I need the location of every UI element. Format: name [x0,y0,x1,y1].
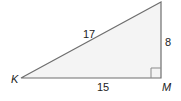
vertex-m-label: M [162,81,172,93]
vertical-leg-label: 8 [165,36,171,48]
triangle-shape [21,2,161,78]
vertex-k-label: K [11,73,19,85]
hypotenuse-label: 17 [83,28,95,40]
triangle-diagram: 17 8 15 K M [0,0,181,101]
base-label: 15 [97,81,109,93]
